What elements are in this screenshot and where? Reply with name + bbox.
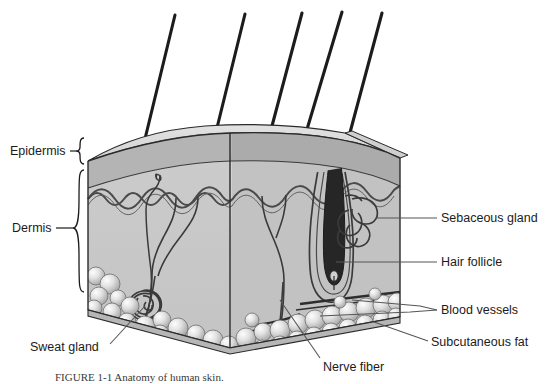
skin-cross-section-svg: Epidermis Dermis Sebaceous gland Hair fo… — [0, 0, 545, 384]
label-sebaceous-gland: Sebaceous gland — [441, 211, 538, 225]
label-subcutaneous-fat: Subcutaneous fat — [431, 335, 529, 349]
epidermis-brace — [76, 138, 84, 164]
label-sweat-gland: Sweat gland — [30, 340, 99, 354]
hair-shaft-internal — [323, 163, 344, 285]
label-epidermis: Epidermis — [10, 144, 66, 158]
hair-shaft-1 — [144, 15, 175, 143]
hair-shaft-3 — [268, 13, 302, 141]
leader-subcutaneous-fat — [374, 322, 428, 341]
skin-anatomy-figure: Epidermis Dermis Sebaceous gland Hair fo… — [0, 0, 545, 384]
label-blood-vessels: Blood vessels — [441, 303, 518, 317]
label-hair-follicle: Hair follicle — [441, 255, 502, 269]
hair-shaft-2 — [214, 14, 245, 140]
hair-shaft-4 — [305, 12, 342, 136]
dermis-brace — [73, 170, 84, 292]
label-dermis: Dermis — [12, 221, 52, 235]
layer-braces — [56, 138, 84, 292]
hair-shaft-5 — [348, 13, 382, 140]
figure-caption: FIGURE 1-1 Anatomy of human skin. — [55, 371, 224, 383]
hair-shafts-group — [144, 12, 382, 143]
label-nerve-fiber: Nerve fiber — [323, 360, 384, 374]
